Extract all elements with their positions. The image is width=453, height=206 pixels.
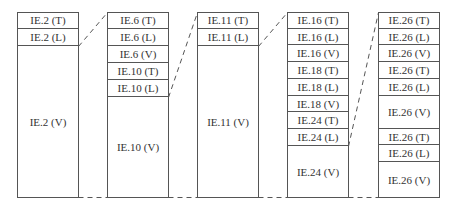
dashed-connector xyxy=(349,13,379,147)
block-cell: IE.18 (T) xyxy=(288,62,348,79)
dashed-connector xyxy=(79,13,108,47)
block-cell: IE.10 (L) xyxy=(108,80,168,97)
block-cell: IE.6 (T) xyxy=(108,12,168,29)
block-cell: IE.2 (V) xyxy=(18,46,78,197)
block-cell: IE.24 (T) xyxy=(288,112,348,129)
block-cell: IE.6 (V) xyxy=(108,46,168,63)
block-column-2: IE.6 (T)IE.6 (L)IE.6 (V)IE.10 (T)IE.10 (… xyxy=(107,12,169,198)
block-cell: IE.6 (L) xyxy=(108,29,168,46)
block-cell: IE.26 (L) xyxy=(379,29,439,45)
block-cell: IE.11 (L) xyxy=(198,29,258,46)
block-cell: IE.26 (V) xyxy=(379,45,439,62)
block-cell: IE.26 (T) xyxy=(379,129,439,145)
block-column-3: IE.11 (T)IE.11 (L)IE.11 (V) xyxy=(197,12,259,198)
block-cell: IE.24 (V) xyxy=(288,146,348,197)
block-cell: IE.26 (T) xyxy=(379,12,439,29)
block-cell: IE.16 (L) xyxy=(288,29,348,45)
block-cell: IE.18 (V) xyxy=(288,96,348,112)
block-cell: IE.26 (L) xyxy=(379,145,439,162)
block-cell: IE.10 (V) xyxy=(108,97,168,197)
block-cell: IE.26 (V) xyxy=(379,162,439,197)
block-cell: IE.26 (T) xyxy=(379,62,439,79)
block-cell: IE.16 (V) xyxy=(288,45,348,62)
block-cell: IE.26 (L) xyxy=(379,79,439,96)
block-cell: IE.10 (T) xyxy=(108,63,168,80)
dashed-connector xyxy=(259,13,288,47)
block-cell: IE.16 (T) xyxy=(288,12,348,29)
block-column-1: IE.2 (T)IE.2 (L)IE.2 (V) xyxy=(17,12,79,198)
dashed-connector xyxy=(169,13,198,98)
block-column-4: IE.16 (T)IE.16 (L)IE.16 (V)IE.18 (T)IE.1… xyxy=(287,12,349,198)
block-cell: IE.26 (V) xyxy=(379,96,439,129)
block-cell: IE.2 (T) xyxy=(18,12,78,29)
block-cell: IE.18 (L) xyxy=(288,79,348,96)
block-cell: IE.2 (L) xyxy=(18,29,78,46)
block-cell: IE.11 (T) xyxy=(198,12,258,29)
block-column-5: IE.26 (T)IE.26 (L)IE.26 (V)IE.26 (T)IE.2… xyxy=(378,12,440,198)
block-cell: IE.11 (V) xyxy=(198,46,258,197)
block-cell: IE.24 (L) xyxy=(288,129,348,146)
